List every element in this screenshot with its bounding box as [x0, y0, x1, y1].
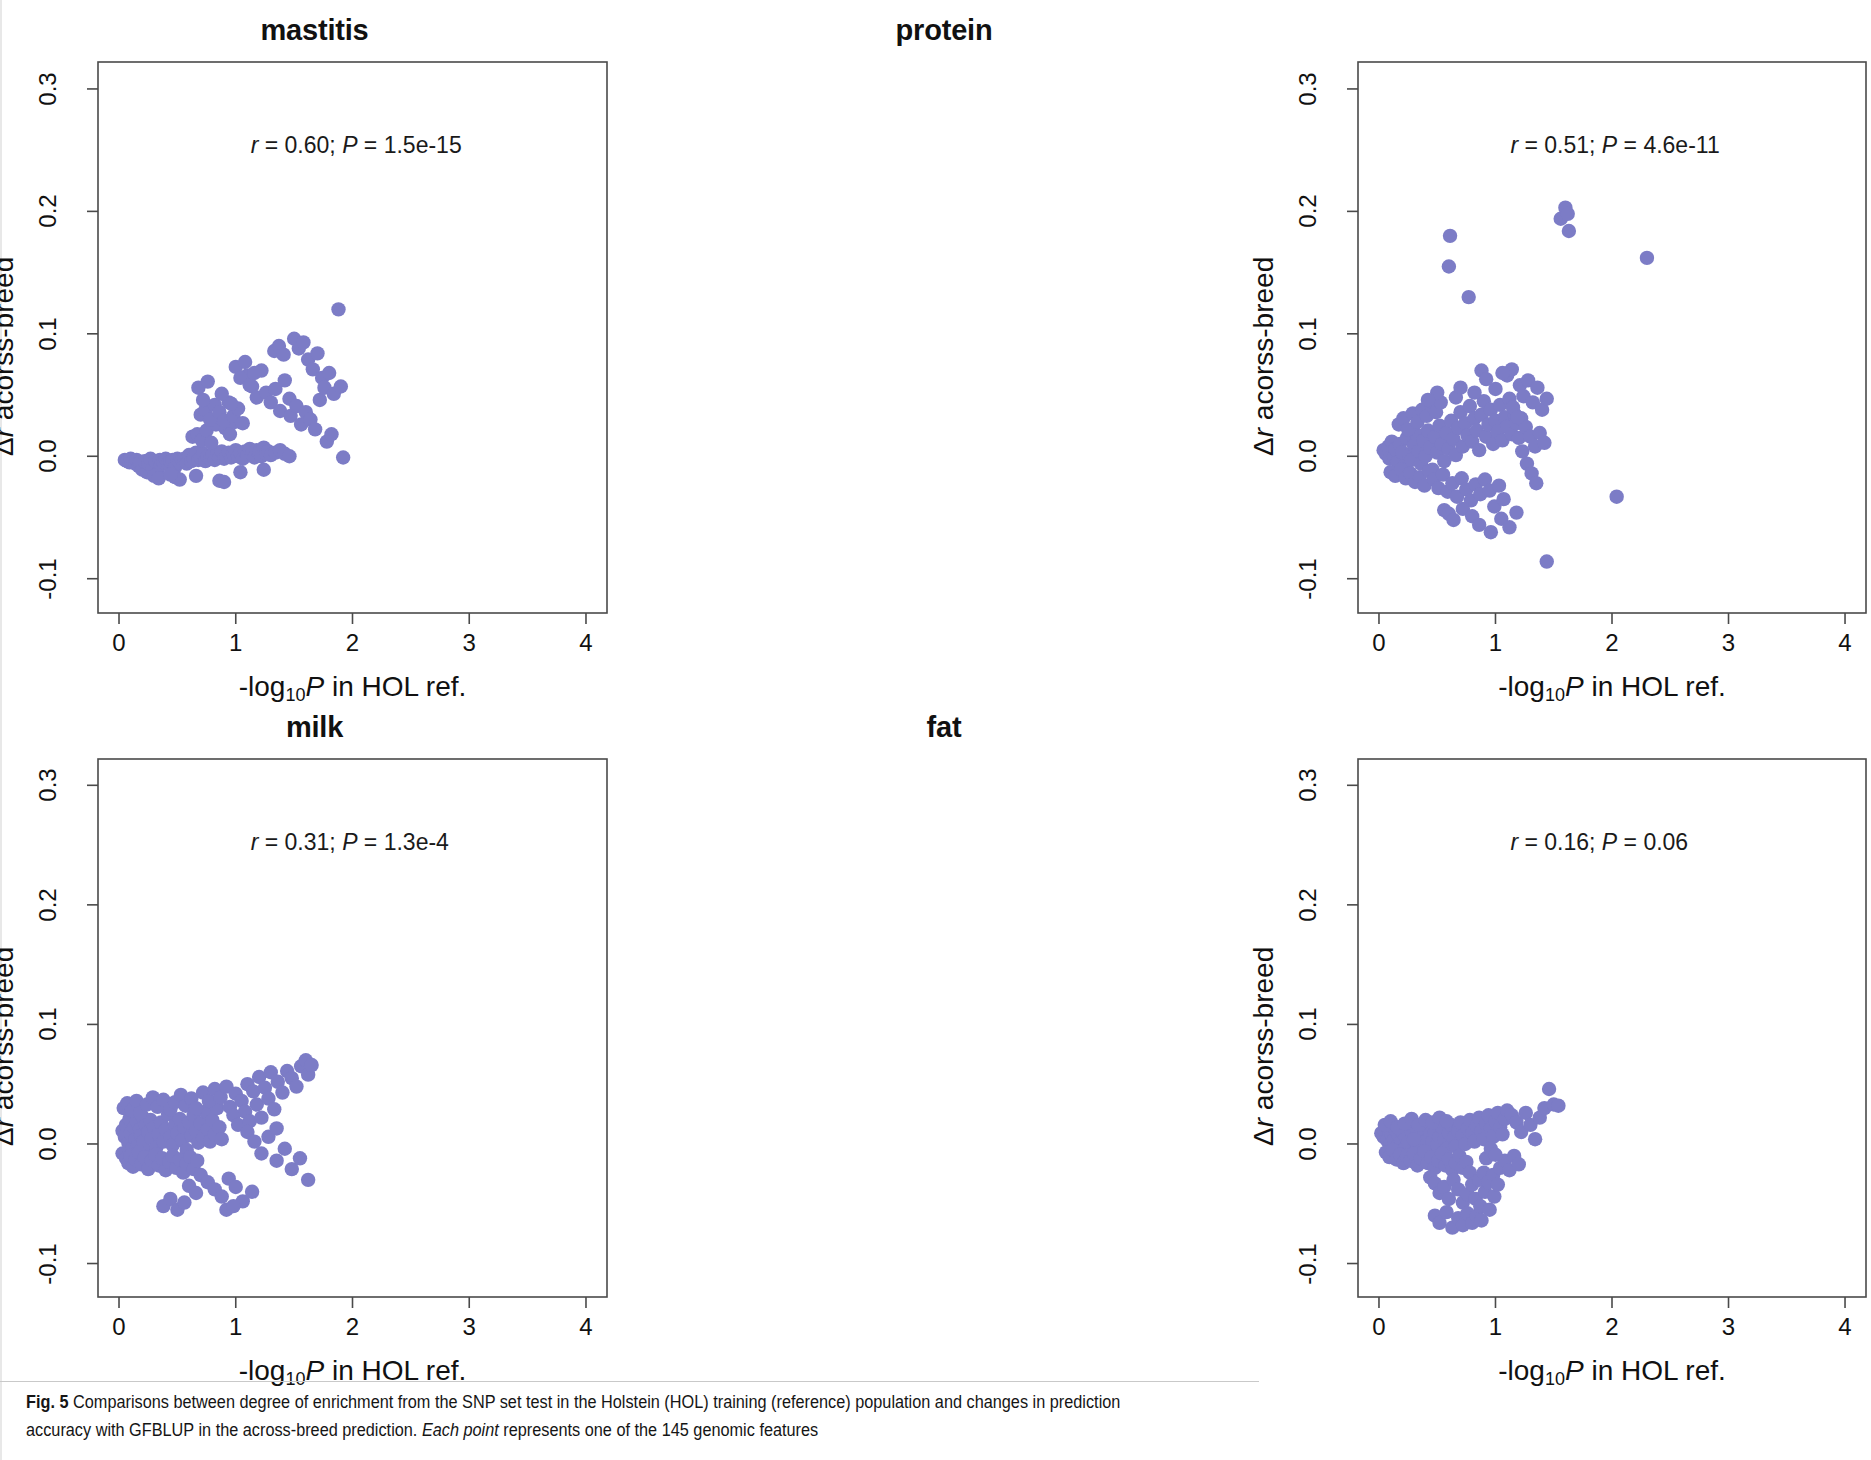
x-tick-label: 2 — [1592, 629, 1632, 657]
y-axis-label-suffix: acorss-breed — [1248, 947, 1279, 1118]
scatter-point — [247, 366, 261, 380]
scatter-point — [177, 1195, 191, 1209]
caption-line-1: Comparisons between degree of enrichment… — [73, 1392, 1045, 1412]
scatter-point — [289, 1079, 303, 1093]
annotation-p-symbol: P — [1602, 132, 1617, 158]
y-axis-label-suffix: acorss-breed — [0, 947, 19, 1118]
scatter-point — [1510, 410, 1524, 424]
panel-fat: fat 01234-0.10.00.10.20.3r = 0.16; P = 0… — [629, 697, 1259, 1397]
scatter-point — [189, 1101, 203, 1115]
scatter-point — [331, 302, 345, 316]
panel-mastitis: mastitis 01234-0.10.00.10.20.3r = 0.60; … — [0, 0, 629, 710]
y-tick-label: 0.0 — [1294, 1109, 1322, 1179]
scatter-point — [196, 393, 210, 407]
scatter-point — [223, 427, 237, 441]
scatter-point — [1609, 489, 1623, 503]
x-tick-label: 0 — [99, 1313, 139, 1341]
scatter-point — [190, 1154, 204, 1168]
scatter-point — [1491, 1177, 1505, 1191]
scatter-point — [1495, 1127, 1509, 1141]
x-tick-label: 2 — [333, 629, 373, 657]
scatter-point — [233, 465, 247, 479]
scatter-point — [254, 1146, 268, 1160]
x-tick-label: 1 — [216, 629, 256, 657]
annotation-r-value: = 0.60; — [258, 132, 342, 158]
y-tick-label: 0.0 — [34, 1109, 62, 1179]
scatter-point — [278, 373, 292, 387]
scatter-point — [275, 1085, 289, 1099]
y-tick-label: 0.3 — [1294, 750, 1322, 820]
x-axis-label-suffix: in HOL ref. — [1584, 1355, 1726, 1386]
correlation-annotation: r = 0.60; P = 1.5e-15 — [251, 132, 462, 159]
annotation-r-symbol: r — [1510, 132, 1518, 158]
panel-protein: protein 01234-0.10.00.10.20.3r = 0.51; P… — [629, 0, 1259, 710]
y-tick-label: 0.1 — [1294, 299, 1322, 369]
scatter-point — [1515, 444, 1529, 458]
scatter-point — [1407, 1132, 1421, 1146]
x-tick-label: 0 — [1359, 1313, 1399, 1341]
correlation-annotation: r = 0.31; P = 1.3e-4 — [251, 829, 449, 856]
y-tick-label: -0.1 — [1294, 1229, 1322, 1299]
scatter-point — [1461, 290, 1475, 304]
x-tick-label: 4 — [1825, 1313, 1865, 1341]
scatter-point — [1496, 492, 1510, 506]
scatter-point — [1529, 476, 1543, 490]
scatter-point — [1509, 505, 1523, 519]
scatter-point — [1482, 1203, 1496, 1217]
y-tick-label: 0.1 — [34, 299, 62, 369]
y-tick-label: 0.0 — [1294, 421, 1322, 491]
scatter-point — [1442, 259, 1456, 273]
scatter-points — [118, 302, 351, 489]
annotation-r-symbol: r — [1510, 829, 1518, 855]
scatter-point — [1453, 381, 1467, 395]
y-tick-label: 0.2 — [1294, 176, 1322, 246]
x-tick-label: 3 — [449, 1313, 489, 1341]
scatter-point — [1561, 207, 1575, 221]
scatter-point — [276, 347, 290, 361]
scatter-point — [1542, 1082, 1556, 1096]
annotation-r-value: = 0.31; — [258, 829, 342, 855]
caption-each-point: Each point — [422, 1420, 499, 1440]
scatter-point — [1467, 385, 1481, 399]
scatter-point — [267, 1102, 281, 1116]
y-axis-label: Δr acorss-breed — [1248, 947, 1280, 1146]
scatter-point — [324, 427, 338, 441]
y-axis-label-suffix: acorss-breed — [1248, 256, 1279, 427]
x-axis-label: -log10P in HOL ref. — [98, 1355, 607, 1387]
y-tick-label: -0.1 — [1294, 544, 1322, 614]
x-axis-label-p: P — [1565, 1355, 1584, 1386]
annotation-p-value: = 4.6e-11 — [1617, 132, 1720, 158]
scatter-point — [322, 366, 336, 380]
scatter-point — [313, 393, 327, 407]
y-tick-label: 0.2 — [34, 870, 62, 940]
correlation-annotation: r = 0.51; P = 4.6e-11 — [1510, 132, 1719, 159]
annotation-p-value: = 1.3e-4 — [357, 829, 448, 855]
scatter-point — [1443, 229, 1457, 243]
scatter-point — [1472, 443, 1486, 457]
x-tick-label: 4 — [1825, 629, 1865, 657]
x-tick-label: 0 — [99, 629, 139, 657]
scatter-point — [336, 450, 350, 464]
scatter-point — [1537, 436, 1551, 450]
annotation-r-value: = 0.51; — [1518, 132, 1602, 158]
annotation-p-value: = 1.5e-15 — [357, 132, 461, 158]
scatter-point — [301, 1173, 315, 1187]
scatter-point — [1540, 554, 1554, 568]
x-tick-label: 3 — [449, 629, 489, 657]
scatter-points — [115, 1053, 319, 1217]
x-tick-label: 1 — [1475, 629, 1515, 657]
annotation-p-symbol: P — [342, 829, 357, 855]
caption-label: Fig. 5 — [26, 1392, 69, 1412]
x-axis-label: -log10P in HOL ref. — [1358, 1355, 1866, 1387]
x-tick-label: 0 — [1359, 629, 1399, 657]
scatter-point — [293, 1151, 307, 1165]
scatter-point — [229, 1180, 243, 1194]
scatter-point — [1528, 1132, 1542, 1146]
caption-divider — [0, 1381, 1259, 1382]
x-axis-label-base: 10 — [1545, 1369, 1565, 1389]
annotation-p-symbol: P — [1602, 829, 1617, 855]
scatter-points — [1374, 1082, 1566, 1235]
scatter-point — [201, 374, 215, 388]
scatter-point — [1463, 399, 1477, 413]
